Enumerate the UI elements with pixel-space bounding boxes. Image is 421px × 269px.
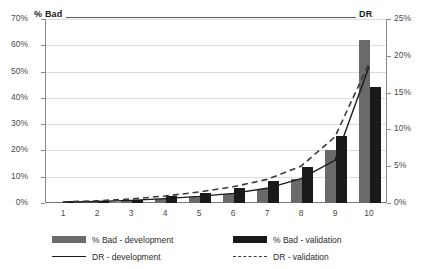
left-tick-label: 30% — [2, 118, 28, 128]
legend-label: DR - validation — [273, 252, 329, 262]
category-label: 5 — [184, 208, 214, 218]
category-label: 3 — [116, 208, 146, 218]
right-tick-mark — [387, 19, 391, 20]
line-series-group — [46, 19, 386, 203]
left-tick-label: 40% — [2, 92, 28, 102]
legend-swatch-bar-icon — [52, 236, 86, 243]
right-tick-label: 15% — [394, 87, 420, 97]
right-tick-label: 25% — [394, 13, 420, 23]
legend-label: % Bad - validation — [273, 235, 342, 245]
right-axis-line — [386, 19, 387, 203]
right-tick-mark — [387, 93, 391, 94]
left-tick-label: 0% — [2, 197, 28, 207]
legend-item-dr-development: DR - development — [52, 252, 217, 262]
dr-validation-line — [63, 63, 369, 202]
right-tick-mark — [387, 203, 391, 204]
chart-container: % Bad DR 0%10%20%30%40%50%60%70% 0%5%10%… — [0, 0, 421, 269]
category-label: 6 — [218, 208, 248, 218]
category-label: 4 — [150, 208, 180, 218]
legend-swatch-bar-icon — [233, 236, 267, 243]
left-tick-label: 50% — [2, 66, 28, 76]
right-tick-mark — [387, 129, 391, 130]
left-tick-label: 10% — [2, 171, 28, 181]
left-tick-label: 60% — [2, 39, 28, 49]
dr-development-line — [63, 67, 369, 203]
legend-label: % Bad - development — [92, 235, 173, 245]
right-tick-mark — [387, 56, 391, 57]
category-label: 10 — [354, 208, 384, 218]
legend-row-bars: % Bad - development % Bad - validation — [52, 231, 382, 248]
category-label: 1 — [48, 208, 78, 218]
right-tick-mark — [387, 166, 391, 167]
right-tick-label: 20% — [394, 50, 420, 60]
legend-item-bad-development: % Bad - development — [52, 235, 217, 245]
chart-legend: % Bad - development % Bad - validation D… — [52, 231, 382, 265]
legend-item-dr-validation: DR - validation — [217, 252, 382, 262]
category-label: 9 — [320, 208, 350, 218]
legend-swatch-solid-line-icon — [52, 256, 86, 257]
left-axis-title: % Bad — [34, 9, 63, 19]
left-tick-mark — [41, 203, 45, 204]
legend-item-bad-validation: % Bad - validation — [217, 235, 382, 245]
category-label: 7 — [252, 208, 282, 218]
legend-row-lines: DR - development DR - validation — [52, 248, 382, 265]
left-tick-label: 20% — [2, 144, 28, 154]
right-tick-label: 5% — [394, 160, 420, 170]
right-tick-label: 0% — [394, 197, 420, 207]
legend-label: DR - development — [92, 252, 161, 262]
category-label: 2 — [82, 208, 112, 218]
legend-swatch-dashed-line-icon — [233, 256, 267, 257]
category-label: 8 — [286, 208, 316, 218]
left-tick-label: 70% — [2, 13, 28, 23]
title-rule — [66, 17, 356, 18]
right-tick-label: 10% — [394, 123, 420, 133]
right-axis-title: DR — [359, 9, 372, 19]
plot-area — [46, 19, 386, 203]
